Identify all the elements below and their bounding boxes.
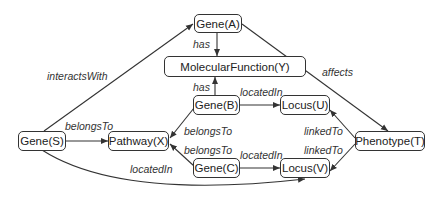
node-label: Gene(A) [196,18,239,30]
edge-label-c-locatedin: locatedIn [240,149,283,161]
edge-label-b-has: has [193,81,210,93]
node-label: Locus(V) [282,162,328,174]
node-label: Gene(S) [20,135,63,147]
node-pathway-x: Pathway(X) [108,131,169,151]
edge-label-t-linkedto-u: linkedTo [304,125,343,137]
edge-label-affects: affects [322,66,353,78]
node-label: Gene(C) [194,162,238,174]
node-label: Pathway(X) [109,135,168,147]
edge-label-t-linkedto-v: linkedTo [304,144,343,156]
edge-label-c-belongsto: belongsTo [184,144,232,156]
edge-label-interactswith: interactsWith [47,70,108,82]
node-label: Gene(B) [195,99,238,111]
node-gene-a: Gene(A) [194,14,242,33]
edge-label-b-locatedin: locatedIn [240,86,283,98]
edge-label-b-belongsto: belongsTo [184,125,232,137]
node-label: MolecularFunction(Y) [180,61,289,73]
edge-label-a-has: has [193,38,210,50]
node-phenotype-t: Phenotype(T) [355,131,425,151]
edge-label-s-locatedin: locatedIn [130,163,173,175]
knowledge-graph-diagram: Gene(A) MolecularFunction(Y) Gene(B) Loc… [0,0,443,199]
node-locus-v: Locus(V) [280,158,330,178]
node-label: Phenotype(T) [355,135,425,147]
edge-label-s-belongsto: belongsTo [65,120,113,132]
node-gene-b: Gene(B) [193,95,240,115]
node-molecular-function-y: MolecularFunction(Y) [164,56,306,77]
node-label: Locus(U) [282,99,329,111]
node-gene-c: Gene(C) [193,158,240,178]
node-locus-u: Locus(U) [280,95,330,115]
node-gene-s: Gene(S) [18,131,66,151]
